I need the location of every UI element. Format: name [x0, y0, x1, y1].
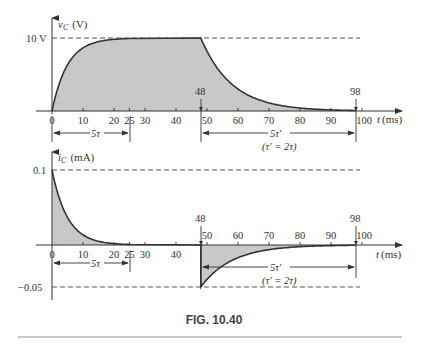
x-tick-label: 50	[202, 115, 213, 126]
vc-5tau-label: 5τ	[91, 128, 101, 139]
x-tick-label: 30	[140, 115, 151, 126]
figure-canvas: 010202530405060708090100 10 V vC(V) t(ms…	[0, 0, 428, 357]
vc-chart: 010202530405060708090100 10 V vC(V) t(ms…	[26, 18, 403, 153]
x-tick-label: 100	[356, 230, 372, 241]
x-tick-label: 10	[78, 249, 89, 260]
vc-tau-relation-label: (τ′ = 2τ)	[262, 141, 297, 153]
x-tick-label: 40	[171, 249, 182, 260]
x-tick-label: 100	[356, 115, 372, 126]
vc-shaded-area	[52, 38, 356, 111]
x-tick-label: 30	[140, 249, 151, 260]
vc-5tau-prime-label: 5τ′	[270, 128, 282, 139]
vc-marker-98-label: 98	[350, 86, 361, 97]
ic-neg0.05-label: −0.05	[18, 282, 42, 293]
ic-x-axis-title: t(ms)	[376, 248, 402, 261]
vc-10v-label: 10 V	[26, 33, 47, 44]
x-tick-label: 60	[233, 230, 244, 241]
x-tick-label: 40	[171, 115, 182, 126]
ic-marker-98-label: 98	[350, 213, 361, 224]
ic-5tau-prime-label: 5τ′	[270, 262, 282, 273]
x-tick-label: 90	[326, 230, 337, 241]
x-tick-label: 70	[264, 230, 275, 241]
x-tick-label: 70	[264, 115, 275, 126]
ic-5tau-label: 5τ	[91, 258, 101, 269]
x-tick-label: 90	[326, 115, 337, 126]
x-tick-label: 25	[124, 115, 135, 126]
x-tick-label: 80	[295, 230, 306, 241]
x-tick-label: 80	[295, 115, 306, 126]
x-tick-label: 60	[233, 115, 244, 126]
x-tick-label: 20	[109, 115, 120, 126]
ic-marker-48-label: 48	[195, 213, 206, 224]
ic-tau-relation-label: (τ′ = 2τ)	[262, 275, 297, 287]
vc-y-axis-title: vC(V)	[58, 18, 88, 32]
x-tick-label: 50	[202, 230, 213, 241]
x-tick-label: 25	[124, 249, 135, 260]
vc-marker-48-label: 48	[195, 86, 206, 97]
ic-y-axis-title: iC(mA)	[58, 151, 95, 165]
x-tick-label: 0	[49, 249, 54, 260]
vc-x-axis-title: t(ms)	[377, 113, 403, 126]
ic-0.1-label: 0.1	[33, 165, 46, 176]
x-tick-label: 10	[78, 115, 89, 126]
ic-chart: 010202530405060708090100 0.1 −0.05 iC(mA…	[18, 151, 402, 300]
x-tick-label: 20	[109, 249, 120, 260]
figure-caption: FIG. 10.40	[186, 313, 243, 327]
